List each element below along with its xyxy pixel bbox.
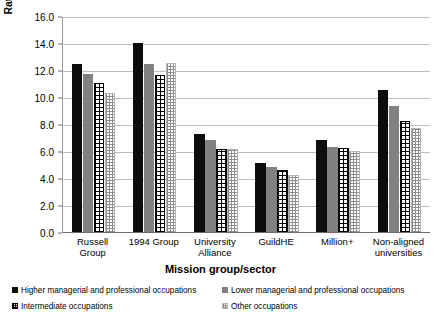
- legend-swatch-icon: [222, 303, 228, 309]
- bar: [349, 151, 360, 233]
- bar: [155, 75, 166, 233]
- bar-group: [247, 17, 308, 233]
- bar: [277, 170, 288, 233]
- bar: [94, 83, 105, 233]
- y-axis-tick-label: 10.0: [35, 93, 54, 104]
- bar-group: [124, 17, 185, 233]
- y-axis-tick-label: 14.0: [35, 39, 54, 50]
- x-axis-category-label: Non-aligneduniversities: [368, 236, 429, 258]
- y-axis-ticks: 16.014.012.010.08.06.04.02.00.0: [20, 17, 58, 233]
- legend-label: Intermediate occupations: [21, 302, 112, 312]
- legend-swatch-icon: [222, 287, 228, 293]
- legend-item: Intermediate occupations: [12, 302, 112, 312]
- bar-chart: Rate of progression 16.014.012.010.08.06…: [0, 0, 441, 319]
- bar: [266, 167, 277, 233]
- bar: [316, 140, 327, 233]
- legend-label: Other occupations: [231, 302, 297, 312]
- legend-swatch-icon: [12, 287, 18, 293]
- bar: [378, 90, 389, 233]
- bar: [83, 74, 94, 233]
- bar-group: [308, 17, 369, 233]
- legend-item: Other occupations: [222, 302, 297, 312]
- legend-item: Lower managerial and professional occupa…: [222, 286, 404, 296]
- bar: [400, 121, 411, 233]
- legend-swatch-icon: [12, 303, 18, 309]
- x-axis-category-labels: RussellGroup1994 GroupUniversityAlliance…: [62, 236, 429, 264]
- legend-label: Higher managerial and professional occup…: [21, 286, 196, 296]
- bar: [144, 64, 155, 233]
- x-axis-title: Mission group/sector: [0, 263, 441, 275]
- bar-group: [185, 17, 246, 233]
- bar: [133, 43, 144, 233]
- bar-group: [63, 17, 124, 233]
- bar: [194, 134, 205, 233]
- bar: [255, 163, 266, 233]
- bar: [327, 147, 338, 233]
- bar-series-container: [63, 17, 430, 233]
- legend-label: Lower managerial and professional occupa…: [231, 286, 404, 296]
- bar: [338, 148, 349, 233]
- x-axis-category-label: GuildHE: [246, 236, 307, 247]
- bar: [205, 140, 216, 233]
- x-axis-category-label: RussellGroup: [62, 236, 123, 258]
- bar: [389, 106, 400, 233]
- bar: [227, 149, 238, 233]
- y-axis-tick-label: 6.0: [40, 147, 54, 158]
- x-axis-category-label: Million+: [307, 236, 368, 247]
- bar-group: [369, 17, 430, 233]
- x-axis-category-label: UniversityAlliance: [184, 236, 245, 258]
- x-axis-line: [63, 232, 430, 233]
- bar: [411, 128, 422, 233]
- bar: [166, 63, 177, 233]
- bar: [288, 175, 299, 233]
- y-axis-tick-label: 12.0: [35, 66, 54, 77]
- bar: [216, 149, 227, 233]
- bar: [105, 93, 116, 233]
- y-axis-tick-label: 0.0: [40, 228, 54, 239]
- bar: [72, 64, 83, 233]
- y-axis-tick-label: 16.0: [35, 12, 54, 23]
- legend-item: Higher managerial and professional occup…: [12, 286, 196, 296]
- plot-area: [62, 17, 430, 233]
- y-axis-tick-label: 8.0: [40, 120, 54, 131]
- y-axis-title: Rate of progression: [2, 0, 14, 40]
- y-axis-tick-label: 2.0: [40, 201, 54, 212]
- x-axis-category-label: 1994 Group: [123, 236, 184, 247]
- y-axis-tick-label: 4.0: [40, 174, 54, 185]
- chart-legend: Higher managerial and professional occup…: [12, 286, 432, 316]
